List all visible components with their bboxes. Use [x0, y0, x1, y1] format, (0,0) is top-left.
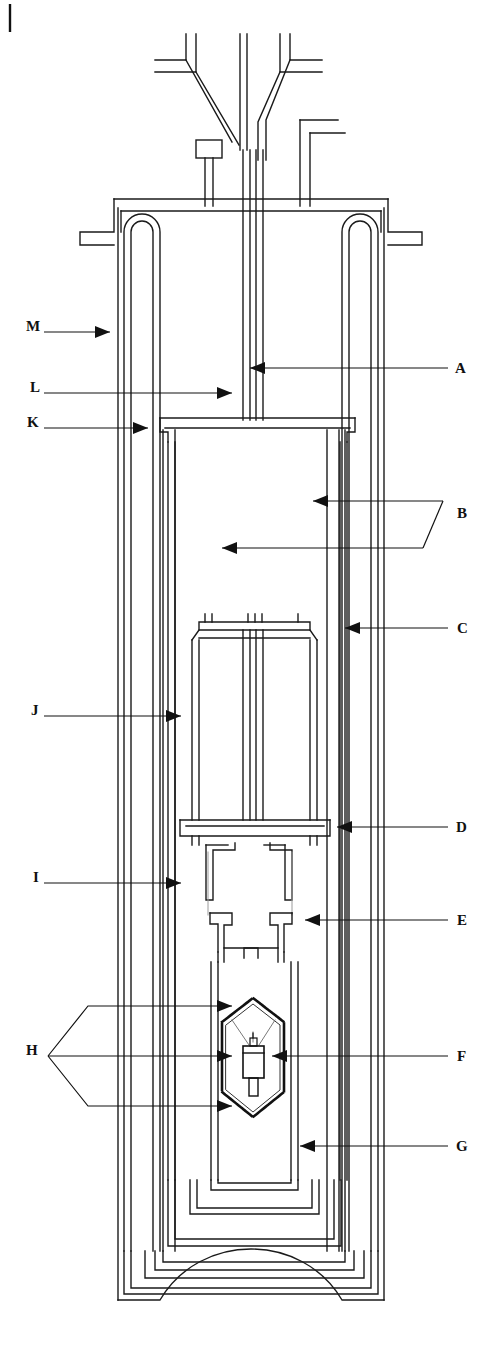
leader-B: [222, 501, 443, 548]
leader-H: [48, 1006, 232, 1106]
seal-latch-E: [210, 913, 292, 962]
callout-label-C: C: [457, 621, 468, 636]
callout-label-E: E: [457, 913, 467, 928]
nested-bottom-closures: [124, 1180, 378, 1294]
specimen-holder-H: [222, 998, 284, 1117]
callout-label-H: H: [26, 1043, 38, 1058]
callout-label-B: B: [457, 506, 467, 521]
callout-label-M: M: [26, 319, 40, 334]
mid-flange-D: [180, 820, 330, 845]
top-piping-assembly: [155, 34, 345, 420]
callout-label-L: L: [30, 380, 40, 395]
central-body-J: [192, 614, 317, 820]
callout-label-I: I: [33, 870, 39, 885]
callout-label-G: G: [456, 1139, 468, 1154]
callout-label-F: F: [457, 1049, 466, 1064]
cross-section-drawing: [0, 0, 502, 1352]
figure-root: M L K J I H A B C D E F G: [0, 0, 502, 1352]
callout-label-A: A: [455, 361, 466, 376]
lower-hangers-I: [206, 843, 292, 915]
callout-label-J: J: [31, 703, 39, 718]
callout-leaders: [44, 332, 448, 1146]
callout-label-K: K: [27, 415, 39, 430]
drawing-geometry: [80, 34, 422, 1300]
support-plate-K: [160, 418, 355, 1180]
vessel-head-flange: [80, 199, 422, 1251]
outer-vessel-walls: [118, 208, 384, 1300]
callout-label-D: D: [456, 820, 467, 835]
